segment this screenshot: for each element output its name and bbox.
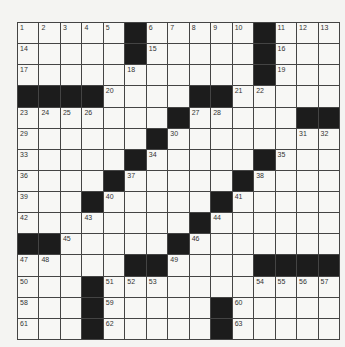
grid-cell[interactable]: 53 bbox=[147, 277, 167, 297]
grid-cell[interactable] bbox=[254, 192, 274, 212]
grid-cell[interactable]: 40 bbox=[104, 192, 124, 212]
grid-cell[interactable]: 41 bbox=[233, 192, 253, 212]
grid-cell[interactable] bbox=[104, 108, 124, 128]
grid-cell[interactable] bbox=[61, 277, 81, 297]
grid-cell[interactable] bbox=[168, 277, 188, 297]
grid-cell[interactable] bbox=[190, 319, 210, 339]
grid-cell[interactable] bbox=[319, 150, 339, 170]
grid-cell[interactable] bbox=[254, 129, 274, 149]
grid-cell[interactable] bbox=[82, 255, 102, 275]
grid-cell[interactable] bbox=[61, 298, 81, 318]
grid-cell[interactable]: 6 bbox=[147, 23, 167, 43]
grid-cell[interactable]: 32 bbox=[319, 129, 339, 149]
grid-cell[interactable] bbox=[82, 44, 102, 64]
grid-cell[interactable]: 18 bbox=[125, 65, 145, 85]
grid-cell[interactable] bbox=[125, 86, 145, 106]
grid-cell[interactable] bbox=[276, 192, 296, 212]
grid-cell[interactable]: 35 bbox=[276, 150, 296, 170]
grid-cell[interactable] bbox=[276, 86, 296, 106]
grid-cell[interactable]: 16 bbox=[276, 44, 296, 64]
grid-cell[interactable]: 43 bbox=[82, 213, 102, 233]
grid-cell[interactable] bbox=[319, 298, 339, 318]
grid-cell[interactable] bbox=[211, 171, 231, 191]
grid-cell[interactable] bbox=[168, 319, 188, 339]
grid-cell[interactable] bbox=[82, 65, 102, 85]
grid-cell[interactable]: 55 bbox=[276, 277, 296, 297]
grid-cell[interactable]: 62 bbox=[104, 319, 124, 339]
grid-cell[interactable]: 37 bbox=[125, 171, 145, 191]
grid-cell[interactable] bbox=[125, 192, 145, 212]
grid-cell[interactable]: 49 bbox=[168, 255, 188, 275]
grid-cell[interactable]: 22 bbox=[254, 86, 274, 106]
grid-cell[interactable]: 58 bbox=[18, 298, 38, 318]
grid-cell[interactable] bbox=[211, 234, 231, 254]
grid-cell[interactable]: 56 bbox=[297, 277, 317, 297]
grid-cell[interactable] bbox=[190, 150, 210, 170]
grid-cell[interactable] bbox=[125, 319, 145, 339]
grid-cell[interactable] bbox=[276, 298, 296, 318]
grid-cell[interactable]: 26 bbox=[82, 108, 102, 128]
grid-cell[interactable] bbox=[61, 255, 81, 275]
grid-cell[interactable] bbox=[104, 150, 124, 170]
grid-cell[interactable] bbox=[233, 255, 253, 275]
grid-cell[interactable] bbox=[297, 86, 317, 106]
grid-cell[interactable]: 28 bbox=[211, 108, 231, 128]
grid-cell[interactable] bbox=[319, 319, 339, 339]
grid-cell[interactable] bbox=[82, 234, 102, 254]
grid-cell[interactable]: 54 bbox=[254, 277, 274, 297]
grid-cell[interactable] bbox=[319, 44, 339, 64]
grid-cell[interactable] bbox=[61, 129, 81, 149]
grid-cell[interactable] bbox=[297, 44, 317, 64]
grid-cell[interactable]: 2 bbox=[39, 23, 59, 43]
grid-cell[interactable] bbox=[61, 171, 81, 191]
grid-cell[interactable] bbox=[276, 129, 296, 149]
grid-cell[interactable] bbox=[319, 192, 339, 212]
grid-cell[interactable]: 59 bbox=[104, 298, 124, 318]
grid-cell[interactable] bbox=[147, 192, 167, 212]
grid-cell[interactable]: 52 bbox=[125, 277, 145, 297]
grid-cell[interactable] bbox=[211, 65, 231, 85]
grid-cell[interactable] bbox=[125, 298, 145, 318]
grid-cell[interactable] bbox=[254, 234, 274, 254]
grid-cell[interactable]: 12 bbox=[297, 23, 317, 43]
grid-cell[interactable] bbox=[39, 192, 59, 212]
grid-cell[interactable] bbox=[190, 255, 210, 275]
grid-cell[interactable]: 48 bbox=[39, 255, 59, 275]
grid-cell[interactable] bbox=[190, 171, 210, 191]
grid-cell[interactable] bbox=[319, 234, 339, 254]
grid-cell[interactable] bbox=[190, 129, 210, 149]
grid-cell[interactable]: 9 bbox=[211, 23, 231, 43]
grid-cell[interactable] bbox=[233, 65, 253, 85]
grid-cell[interactable]: 14 bbox=[18, 44, 38, 64]
grid-cell[interactable]: 51 bbox=[104, 277, 124, 297]
grid-cell[interactable] bbox=[147, 65, 167, 85]
grid-cell[interactable] bbox=[233, 213, 253, 233]
grid-cell[interactable] bbox=[82, 171, 102, 191]
grid-cell[interactable] bbox=[233, 129, 253, 149]
grid-cell[interactable]: 57 bbox=[319, 277, 339, 297]
grid-cell[interactable]: 46 bbox=[190, 234, 210, 254]
grid-cell[interactable] bbox=[276, 234, 296, 254]
grid-cell[interactable] bbox=[82, 129, 102, 149]
grid-cell[interactable] bbox=[104, 213, 124, 233]
grid-cell[interactable]: 17 bbox=[18, 65, 38, 85]
grid-cell[interactable]: 42 bbox=[18, 213, 38, 233]
grid-cell[interactable] bbox=[147, 171, 167, 191]
grid-cell[interactable] bbox=[211, 150, 231, 170]
grid-cell[interactable] bbox=[233, 234, 253, 254]
grid-cell[interactable]: 15 bbox=[147, 44, 167, 64]
grid-cell[interactable] bbox=[319, 171, 339, 191]
grid-cell[interactable] bbox=[168, 65, 188, 85]
grid-cell[interactable] bbox=[297, 65, 317, 85]
grid-cell[interactable] bbox=[297, 298, 317, 318]
grid-cell[interactable] bbox=[297, 171, 317, 191]
grid-cell[interactable] bbox=[297, 234, 317, 254]
grid-cell[interactable] bbox=[297, 319, 317, 339]
grid-cell[interactable]: 13 bbox=[319, 23, 339, 43]
grid-cell[interactable] bbox=[147, 108, 167, 128]
grid-cell[interactable] bbox=[319, 65, 339, 85]
grid-cell[interactable]: 11 bbox=[276, 23, 296, 43]
grid-cell[interactable] bbox=[39, 213, 59, 233]
grid-cell[interactable] bbox=[211, 44, 231, 64]
grid-cell[interactable]: 5 bbox=[104, 23, 124, 43]
